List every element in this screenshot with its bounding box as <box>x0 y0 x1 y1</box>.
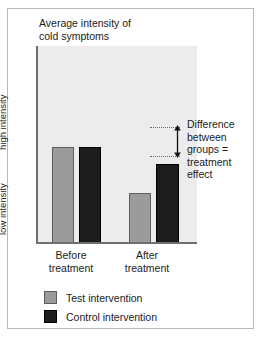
bar-after-control-intervention <box>156 164 179 243</box>
y-axis-label-low: low intensity <box>0 183 8 235</box>
y-axis-label-high: high intensity <box>0 95 8 150</box>
legend-label-test-intervention: Test intervention <box>66 292 142 304</box>
x-axis-label-after-treatment: After treatment <box>112 249 182 274</box>
figure-frame: Average intensity of cold symptoms high … <box>7 8 254 329</box>
difference-annotation-text: Difference between groups = treatment ef… <box>187 118 251 181</box>
bar-before-control-intervention <box>79 147 101 243</box>
bar-after-test-intervention <box>129 193 151 243</box>
difference-arrow-icon <box>172 125 183 158</box>
legend: Test intervention Control intervention <box>44 288 157 326</box>
legend-item-control-intervention: Control intervention <box>44 307 157 326</box>
bar-before-test-intervention <box>52 147 74 243</box>
y-axis-line <box>36 46 38 243</box>
legend-swatch-control-icon <box>44 310 57 323</box>
x-axis-line <box>36 242 197 244</box>
legend-label-control-intervention: Control intervention <box>66 311 157 323</box>
legend-item-test-intervention: Test intervention <box>44 288 157 307</box>
x-axis-label-before-treatment: Before treatment <box>36 249 106 274</box>
legend-swatch-test-icon <box>44 291 57 304</box>
chart-title: Average intensity of cold symptoms <box>39 17 189 42</box>
